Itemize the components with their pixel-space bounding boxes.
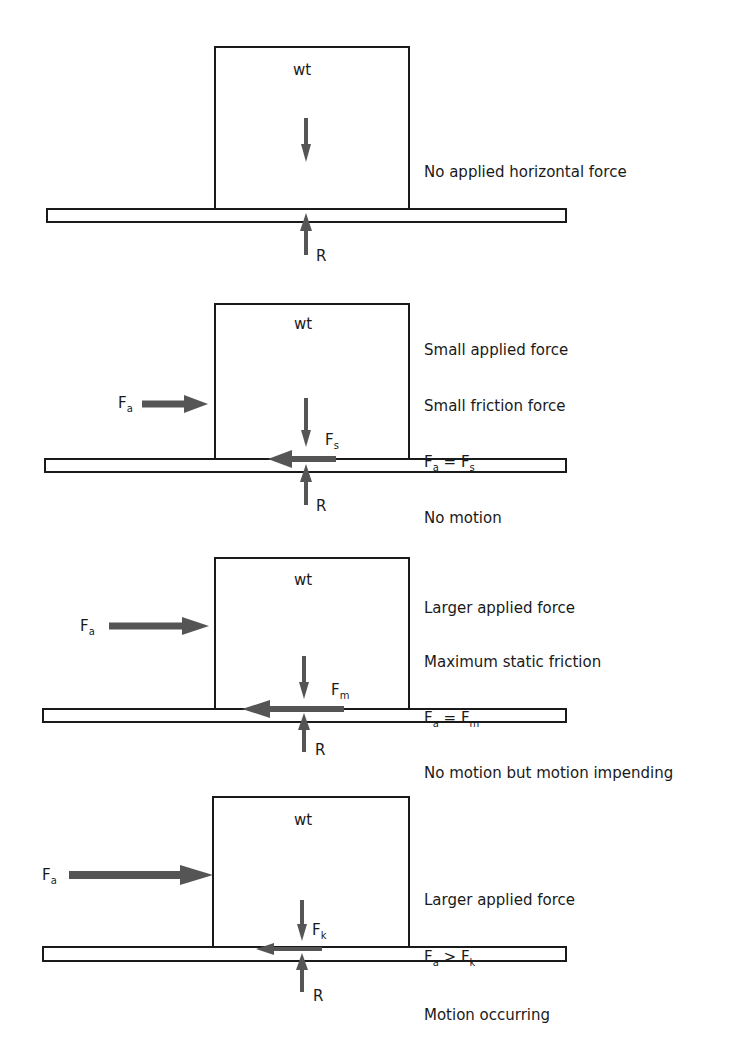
weight-label: wt: [293, 61, 311, 79]
panel-small-force: wt Fa Fs R Small applied force Small fri…: [45, 304, 568, 527]
applied-force-arrow-icon: [142, 395, 208, 413]
note-1: No applied horizontal force: [424, 163, 627, 181]
friction-force-label: Fk: [312, 921, 327, 941]
note-2: Small friction force: [424, 397, 566, 415]
note-4: No motion: [424, 509, 502, 527]
note-1: Small applied force: [424, 341, 568, 359]
weight-arrow-icon: [301, 398, 311, 447]
applied-force-label: Fa: [118, 394, 133, 414]
weight-arrow-icon: [301, 118, 311, 162]
applied-force-arrow-icon: [109, 617, 209, 635]
reaction-label: R: [316, 497, 326, 515]
weight-label: wt: [294, 811, 312, 829]
equation: Fa = Fs: [424, 453, 475, 473]
note-1: Larger applied force: [424, 891, 575, 909]
reaction-label: R: [316, 247, 326, 265]
note-2: Maximum static friction: [424, 653, 601, 671]
weight-arrow-icon: [299, 656, 309, 699]
panel-max-static-friction: wt Fa Fm R Larger applied force Maximum …: [43, 558, 673, 782]
applied-force-label: Fa: [42, 866, 57, 886]
weight-label: wt: [294, 571, 312, 589]
friction-force-label: Fs: [325, 431, 339, 451]
block: [215, 47, 409, 209]
friction-diagram: wt R No applied horizontal force wt Fa: [0, 0, 756, 1058]
note-4: No motion but motion impending: [424, 764, 673, 782]
equation: Fa > Fk: [424, 948, 476, 968]
weight-arrow-icon: [297, 900, 307, 941]
reaction-label: R: [313, 987, 323, 1005]
reaction-label: R: [315, 741, 325, 759]
weight-label: wt: [294, 315, 312, 333]
panel-kinetic-friction: wt Fa Fk R Larger applied force Fa > Fk …: [42, 797, 575, 1024]
note-1: Larger applied force: [424, 599, 575, 617]
applied-force-arrow-icon: [69, 865, 213, 885]
note-3: Motion occurring: [424, 1006, 550, 1024]
applied-force-label: Fa: [80, 617, 95, 637]
friction-force-label: Fm: [331, 681, 349, 701]
panel-no-force: wt R No applied horizontal force: [47, 47, 627, 265]
